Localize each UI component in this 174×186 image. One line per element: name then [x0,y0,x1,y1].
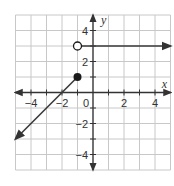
x-tick-label: 0 [83,97,89,109]
x-tick-label: 2 [121,97,127,109]
y-tick-label: 4 [82,25,88,37]
x-axis-label: x [161,77,168,91]
piecewise-graph: −4−202442−2−4xy [0,0,174,186]
x-tick-label: −2 [56,97,69,109]
x-tick-label: −4 [25,97,38,109]
open-circle-endpoint [74,42,82,50]
y-tick-label: −4 [75,149,88,161]
y-tick-label: 2 [82,56,88,68]
closed-circle-endpoint [74,73,82,81]
x-tick-label: 4 [152,97,158,109]
y-axis-label: y [100,13,107,27]
y-tick-label: −2 [75,118,88,130]
